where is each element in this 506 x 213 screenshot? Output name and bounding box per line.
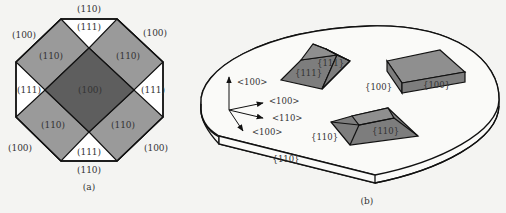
label-upper-left-face: (110)	[39, 51, 63, 61]
label-upper-right-face: (110)	[116, 51, 140, 61]
label-right-tri: (111)	[141, 85, 165, 95]
label-bottom-left-corner: (100)	[8, 143, 32, 153]
label-left-tri: (111)	[17, 85, 41, 95]
panel-a-octagon: (110) (111) (100) (100) (110) (110) (111…	[8, 4, 168, 192]
label-top-left-corner: (100)	[12, 30, 36, 40]
caption-b: (b)	[361, 196, 374, 206]
label-pyramid-side: {111}	[317, 58, 344, 68]
label-lower-left-face: (110)	[41, 120, 65, 130]
label-lower-right-face: (110)	[111, 120, 135, 130]
label-box-front: {100}	[423, 80, 450, 90]
label-ridge-side: {110}	[311, 132, 338, 142]
diagram-canvas: (110) (111) (100) (100) (110) (110) (111…	[0, 0, 506, 213]
label-axis-up: <100>	[237, 77, 267, 87]
label-axis-diag: <110>	[272, 113, 302, 123]
label-bottom-right-corner: (100)	[144, 143, 168, 153]
label-pyramid-front: {111}	[295, 68, 322, 78]
label-axis-right: <100>	[269, 96, 299, 106]
label-bottom-edge: (110)	[77, 165, 101, 175]
panel-b-wafer: {110} <100> <100> <110> <100> {111} {111…	[201, 26, 499, 206]
label-wafer-flat: {110}	[272, 154, 299, 164]
label-bottom-tri: (111)	[77, 147, 101, 157]
caption-a: (a)	[83, 182, 95, 192]
label-ridge-front: {110}	[372, 126, 399, 136]
label-center: (100)	[78, 85, 102, 95]
label-top-right-corner: (100)	[143, 28, 167, 38]
label-top-tri: (111)	[77, 22, 101, 32]
label-top-edge: (110)	[77, 4, 101, 14]
label-axis-down: <100>	[252, 127, 282, 137]
label-box-side: {100}	[365, 82, 392, 92]
